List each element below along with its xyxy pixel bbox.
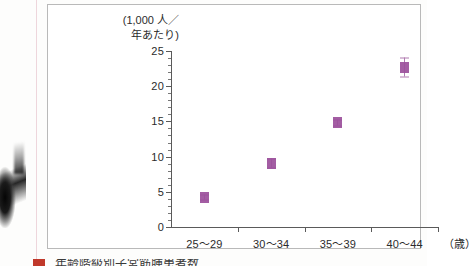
y-tick-major	[166, 86, 171, 87]
scan-shadow-artifact-tip	[14, 140, 24, 174]
y-tick-major	[166, 192, 171, 193]
y-tick-minor	[168, 199, 171, 200]
y-tick-label: 15	[151, 115, 164, 127]
y-tick-label: 0	[158, 221, 164, 233]
y-tick-label: 10	[151, 151, 164, 163]
y-tick-label: 25	[151, 45, 164, 57]
data-point-marker	[333, 117, 342, 128]
y-tick-minor	[168, 114, 171, 115]
y-tick-minor	[168, 206, 171, 207]
y-axis-unit-label: (1,000 人／ 年あたり)	[107, 13, 179, 43]
caption-marker-icon	[33, 259, 45, 266]
x-tick-label: 35〜39	[320, 235, 356, 251]
caption-text: 年齢階級別子宮筋腫患者数	[55, 259, 199, 266]
x-tick	[371, 227, 372, 232]
y-tick-minor	[168, 164, 171, 165]
page-margin-rule	[36, 0, 37, 266]
data-point-marker	[400, 62, 409, 73]
y-tick-major	[166, 51, 171, 52]
y-tick-major	[166, 121, 171, 122]
data-point-marker	[267, 158, 276, 169]
y-tick-minor	[168, 79, 171, 80]
y-tick-minor	[168, 143, 171, 144]
x-tick-label: 25〜29	[186, 235, 222, 251]
y-tick-minor	[168, 171, 171, 172]
y-axis-line	[171, 51, 172, 227]
y-tick-label: 20	[151, 80, 164, 92]
x-tick-label: 40〜44	[386, 235, 422, 251]
y-tick-minor	[168, 220, 171, 221]
y-tick-minor	[168, 150, 171, 151]
data-point	[204, 197, 205, 198]
y-tick-major	[166, 157, 171, 158]
y-tick-minor	[168, 185, 171, 186]
y-tick-minor	[168, 213, 171, 214]
y-tick-minor	[168, 72, 171, 73]
y-tick-minor	[168, 178, 171, 179]
data-point	[337, 122, 338, 123]
y-tick-major	[166, 227, 171, 228]
data-point	[271, 163, 272, 164]
x-tick-label: 30〜34	[253, 235, 289, 251]
x-axis-unit-label: （歳）	[443, 235, 473, 251]
y-tick-minor	[168, 58, 171, 59]
y-tick-label: 5	[158, 186, 164, 198]
y-tick-minor	[168, 93, 171, 94]
data-point-marker	[200, 192, 209, 203]
y-tick-minor	[168, 100, 171, 101]
scan-shadow-artifact	[0, 148, 26, 228]
x-tick	[438, 227, 439, 232]
figure-frame: (1,000 人／ 年あたり) 0510152025 25〜2930〜3435〜…	[47, 4, 421, 249]
data-point	[404, 67, 405, 68]
plot-area: 0510152025 25〜2930〜3435〜3940〜44 （歳）	[171, 51, 438, 227]
y-tick-minor	[168, 135, 171, 136]
error-bar-cap-lower	[400, 77, 409, 78]
x-tick	[305, 227, 306, 232]
y-tick-minor	[168, 128, 171, 129]
y-tick-minor	[168, 65, 171, 66]
figure-caption: 年齢階級別子宮筋腫患者数	[33, 259, 293, 266]
error-bar-cap-upper	[400, 58, 409, 59]
y-tick-minor	[168, 107, 171, 108]
x-tick	[238, 227, 239, 232]
